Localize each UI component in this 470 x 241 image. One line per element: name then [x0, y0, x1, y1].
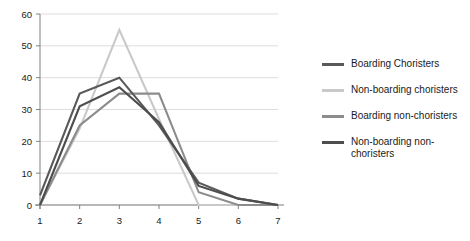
y-tick-label: 30: [21, 104, 32, 115]
legend-item-label: Boarding non-choristers: [351, 110, 457, 122]
x-tick-label: 7: [275, 215, 280, 226]
legend-item: Non-boarding choristers: [322, 84, 470, 96]
series-line: [40, 94, 278, 205]
x-tick-label: 5: [196, 215, 201, 226]
y-tick-label: 10: [21, 168, 32, 179]
legend-item-label: Non-boarding choristers: [351, 84, 458, 96]
x-tick-label: 2: [77, 215, 82, 226]
legend-item: Boarding Choristers: [322, 58, 470, 70]
line-chart: 0102030405060 1234567 Boarding Chorister…: [0, 0, 470, 241]
x-axis-tick-labels: 1234567: [37, 215, 280, 226]
plot-svg: 0102030405060 1234567: [0, 0, 300, 241]
y-tick-label: 50: [21, 40, 32, 51]
x-tick-label: 3: [117, 215, 122, 226]
legend-color-swatch: [322, 89, 344, 92]
legend-item-label: Non-boarding non- choristers: [351, 136, 434, 160]
plot-area: 0102030405060 1234567: [0, 0, 300, 241]
series-lines: [40, 30, 278, 205]
legend-color-swatch: [322, 141, 344, 144]
y-tick-label: 0: [27, 200, 32, 211]
legend-color-swatch: [322, 63, 344, 66]
y-tick-label: 20: [21, 136, 32, 147]
legend-item-label: Boarding Choristers: [351, 58, 439, 70]
y-axis-tick-labels: 0102030405060: [21, 9, 32, 211]
legend-item: Boarding non-choristers: [322, 110, 470, 122]
legend-item: Non-boarding non- choristers: [322, 136, 470, 160]
x-tick-label: 4: [156, 215, 161, 226]
y-tick-label: 60: [21, 9, 32, 20]
chart-legend: Boarding Choristers Non-boarding chorist…: [322, 58, 470, 174]
x-tick-label: 1: [37, 215, 42, 226]
x-tick-label: 6: [236, 215, 241, 226]
y-tick-label: 40: [21, 72, 32, 83]
legend-color-swatch: [322, 115, 344, 118]
gridlines: [40, 14, 278, 205]
